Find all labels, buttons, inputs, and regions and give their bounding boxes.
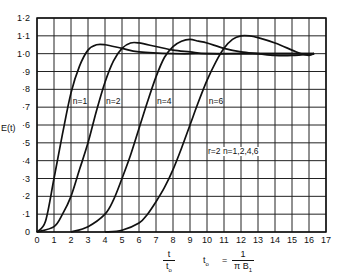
series-line-n6 — [105, 35, 314, 232]
series-line-n1 — [37, 44, 314, 232]
formula-lhs: to — [203, 256, 209, 269]
x-tick-label: 16 — [302, 236, 316, 245]
x-tick-label: 14 — [268, 236, 282, 245]
series-line-n4 — [71, 39, 314, 232]
formula-denominator: π B1 — [232, 261, 254, 275]
y-tick-label: ·7 — [6, 103, 30, 112]
formula-den-sub: 1 — [249, 267, 252, 273]
x-axis-label-denominator: to — [163, 261, 175, 275]
x-tick-label: 1 — [47, 236, 61, 245]
x-tick-label: 15 — [285, 236, 299, 245]
y-tick-label: ·3 — [6, 175, 30, 184]
y-tick-label: 1·0 — [6, 50, 30, 59]
param-note: r=2 n=1,2,4,6 — [208, 147, 259, 156]
x-tick-label: 0 — [30, 236, 44, 245]
x-axis-label-den-sub: o — [169, 267, 172, 273]
formula-lhs-sub: o — [206, 261, 209, 267]
x-tick-label: 10 — [200, 236, 214, 245]
x-tick-label: 4 — [98, 236, 112, 245]
x-axis-label: t to — [163, 250, 175, 275]
x-axis-label-numerator: t — [163, 250, 175, 261]
formula-equals: = — [222, 256, 227, 265]
curve-label-n2: n=2 — [106, 97, 120, 106]
x-tick-label: 12 — [234, 236, 248, 245]
x-tick-label: 9 — [183, 236, 197, 245]
x-tick-label: 11 — [217, 236, 231, 245]
chart-plot-area — [0, 0, 340, 275]
y-tick-label: ·4 — [6, 157, 30, 166]
y-tick-label: ·5 — [6, 139, 30, 148]
y-tick-label: ·8 — [6, 85, 30, 94]
y-tick-label: ·1 — [6, 210, 30, 219]
x-tick-label: 8 — [166, 236, 180, 245]
curve-label-n6: n=6 — [209, 97, 223, 106]
y-tick-label: 0 — [6, 228, 30, 237]
y-axis-label: E(t) — [1, 124, 16, 133]
y-tick-label: 1·1 — [6, 32, 30, 41]
x-tick-label: 7 — [149, 236, 163, 245]
x-tick-label: 17 — [319, 236, 333, 245]
curve-label-n4: n=4 — [157, 97, 171, 106]
y-tick-label: ·9 — [6, 68, 30, 77]
x-tick-label: 2 — [64, 236, 78, 245]
formula-den-text: π B — [234, 261, 249, 271]
curve-label-n1: n=1 — [73, 97, 87, 106]
x-tick-label: 13 — [251, 236, 265, 245]
formula-numerator: 1 — [232, 250, 254, 261]
formula-fraction: 1 π B1 — [232, 250, 254, 275]
y-tick-label: ·2 — [6, 192, 30, 201]
x-tick-label: 3 — [81, 236, 95, 245]
y-tick-label: 1·2 — [6, 14, 30, 23]
x-tick-label: 6 — [132, 236, 146, 245]
x-tick-label: 5 — [115, 236, 129, 245]
